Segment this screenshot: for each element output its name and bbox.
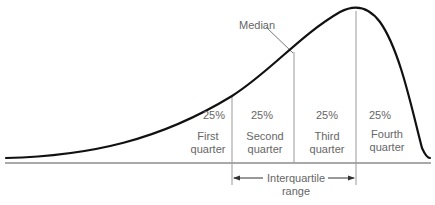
second-quarter-line1: Second bbox=[238, 130, 292, 143]
skewed-distribution-diagram bbox=[0, 0, 435, 205]
first-quarter-label: First quarter bbox=[183, 130, 233, 156]
second-quarter-percent: 25% bbox=[251, 109, 273, 122]
fourth-quarter-label: Fourth quarter bbox=[363, 128, 411, 154]
second-quarter-line2: quarter bbox=[238, 143, 292, 156]
fourth-quarter-line2: quarter bbox=[363, 141, 411, 154]
third-quarter-line2: quarter bbox=[300, 143, 354, 156]
fourth-quarter-percent: 25% bbox=[369, 109, 391, 122]
first-quarter-line1: First bbox=[183, 130, 233, 143]
interquartile-range-line1: Interquartile bbox=[262, 172, 330, 185]
third-quarter-label: Third quarter bbox=[300, 130, 354, 156]
third-quarter-line1: Third bbox=[300, 130, 354, 143]
second-quarter-label: Second quarter bbox=[238, 130, 292, 156]
median-label: Median bbox=[239, 19, 275, 32]
interquartile-range-label: Interquartile range bbox=[262, 172, 330, 198]
fourth-quarter-line1: Fourth bbox=[363, 128, 411, 141]
right-arrowhead-icon bbox=[348, 176, 355, 181]
first-quarter-line2: quarter bbox=[183, 143, 233, 156]
third-quarter-percent: 25% bbox=[316, 109, 338, 122]
interquartile-range-line2: range bbox=[262, 185, 330, 198]
left-arrowhead-icon bbox=[233, 176, 240, 181]
first-quarter-percent: 25% bbox=[203, 109, 225, 122]
